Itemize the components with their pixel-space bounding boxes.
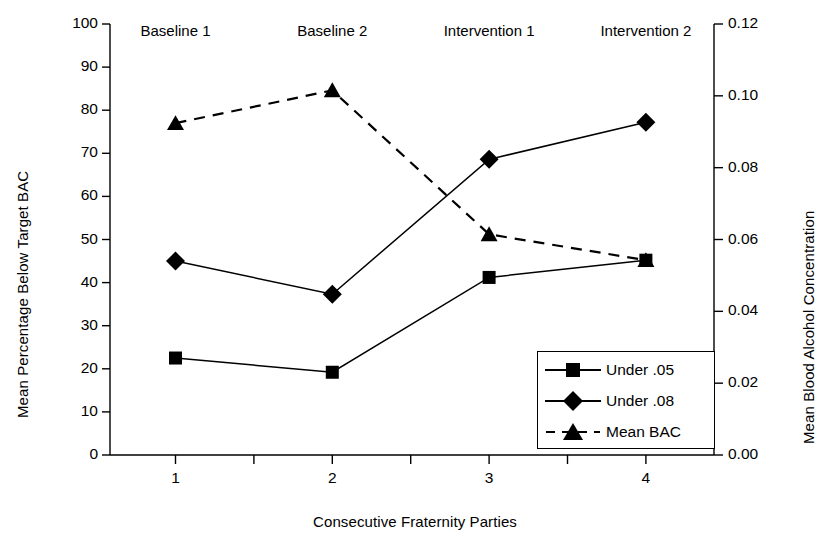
plot-area bbox=[0, 0, 830, 547]
y-tick-label-left: 90 bbox=[38, 57, 98, 75]
y-tick-label-left: 80 bbox=[38, 100, 98, 118]
x-tick-label: 1 bbox=[156, 469, 196, 487]
y-tick-label-left: 40 bbox=[38, 273, 98, 291]
data-series bbox=[166, 82, 655, 378]
y-tick-label-left: 30 bbox=[38, 316, 98, 334]
legend-item-mean-bac: Mean BAC bbox=[538, 416, 714, 448]
y-tick-label-left: 10 bbox=[38, 402, 98, 420]
y-tick-label-right: 0.12 bbox=[728, 14, 798, 32]
y-tick-label-left: 50 bbox=[38, 230, 98, 248]
y-tick-label-right: 0.08 bbox=[728, 158, 798, 176]
y-tick-label-left: 0 bbox=[38, 445, 98, 463]
y-tick-label-right: 0.02 bbox=[728, 373, 798, 391]
legend-label: Under .08 bbox=[606, 392, 674, 410]
x-tick-label: 2 bbox=[312, 469, 352, 487]
legend-sample-diamond-solid bbox=[543, 388, 603, 414]
chart-figure: Mean Percentage Below Target BAC Mean Bl… bbox=[0, 0, 830, 547]
x-tick-label: 3 bbox=[469, 469, 509, 487]
y-tick-label-left: 60 bbox=[38, 186, 98, 204]
legend-sample-triangle-dashed bbox=[543, 419, 603, 445]
legend-item-under-08: Under .08 bbox=[538, 385, 714, 417]
x-tick-label: 4 bbox=[626, 469, 666, 487]
legend: Under .05 Under .08 Mean BAC bbox=[537, 351, 715, 449]
legend-label: Mean BAC bbox=[606, 423, 681, 441]
y-tick-label-left: 100 bbox=[38, 14, 98, 32]
legend-sample-square-solid bbox=[543, 357, 603, 383]
y-tick-label-right: 0.06 bbox=[728, 230, 798, 248]
y-tick-label-right: 0.00 bbox=[728, 445, 798, 463]
y-tick-label-right: 0.04 bbox=[728, 301, 798, 319]
legend-item-under-05: Under .05 bbox=[538, 354, 714, 386]
y-tick-label-left: 20 bbox=[38, 359, 98, 377]
y-tick-label-left: 70 bbox=[38, 143, 98, 161]
legend-label: Under .05 bbox=[606, 361, 674, 379]
y-tick-label-right: 0.10 bbox=[728, 86, 798, 104]
